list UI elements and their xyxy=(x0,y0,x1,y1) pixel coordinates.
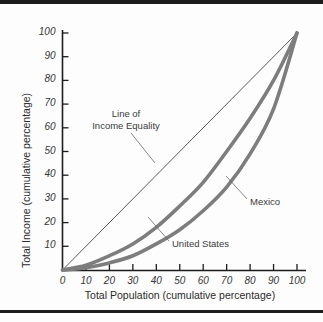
x-tick-label-0: 0 xyxy=(50,275,76,286)
x-tick-label-10: 10 xyxy=(73,275,99,286)
x-tick-label-80: 80 xyxy=(237,275,263,286)
annotation-income-equality-line2: Income Equality xyxy=(84,120,168,132)
x-tick-label-30: 30 xyxy=(120,275,146,286)
x-axis-title: Total Population (cumulative percentage) xyxy=(62,289,298,301)
y-tick-marks xyxy=(63,33,69,246)
income-equality-line xyxy=(63,33,298,270)
annotation-income-equality: Line of Income Equality xyxy=(84,108,168,132)
x-tick-label-40: 40 xyxy=(143,275,169,286)
y-tick-label-70: 70 xyxy=(44,97,55,108)
mexico-leader-line xyxy=(226,176,247,199)
annotation-united-states: United States xyxy=(172,238,254,249)
y-tick-label-100: 100 xyxy=(39,26,56,37)
y-tick-label-50: 50 xyxy=(44,145,55,156)
y-tick-label-10: 10 xyxy=(44,239,55,250)
y-axis-title: Total Income (cumulative percentage) xyxy=(20,93,32,268)
y-tick-label-90: 90 xyxy=(44,50,55,61)
y-tick-label-30: 30 xyxy=(44,192,55,203)
annotation-mexico: Mexico xyxy=(250,196,304,207)
x-tick-marks xyxy=(86,264,297,270)
x-tick-label-90: 90 xyxy=(261,275,287,286)
y-tick-label-40: 40 xyxy=(44,168,55,179)
y-tick-label-80: 80 xyxy=(44,73,55,84)
y-tick-label-20: 20 xyxy=(44,216,55,227)
x-tick-label-70: 70 xyxy=(214,275,240,286)
chart-page: 100908070605040302010 010203040506070809… xyxy=(0,0,323,322)
x-tick-label-60: 60 xyxy=(190,275,216,286)
x-tick-label-100: 100 xyxy=(284,275,310,286)
x-tick-label-50: 50 xyxy=(167,275,193,286)
annotation-income-equality-line1: Line of xyxy=(84,108,168,120)
lorenz-curve-plot xyxy=(0,0,323,322)
equality-leader-line xyxy=(131,133,155,163)
y-tick-label-60: 60 xyxy=(44,121,55,132)
x-tick-label-20: 20 xyxy=(96,275,122,286)
